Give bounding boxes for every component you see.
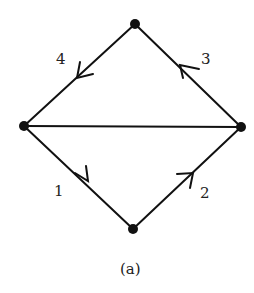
edge-top-left	[24, 24, 135, 126]
caption: (a)	[120, 262, 141, 277]
node-top	[130, 19, 140, 29]
graph-canvas	[0, 0, 254, 293]
node-bottom	[128, 224, 138, 234]
edge-label-3: 3	[201, 52, 211, 67]
node-right	[236, 122, 246, 132]
edge-label-4: 4	[56, 52, 66, 67]
edge-label-2: 2	[200, 186, 210, 201]
edge-left-bottom	[24, 126, 133, 229]
diagram: 4 3 1 2 (a)	[0, 0, 254, 293]
edge-left-right	[24, 126, 241, 127]
node-left	[19, 121, 29, 131]
edge-label-1: 1	[54, 184, 64, 199]
edge-bottom-right	[133, 127, 241, 229]
arrow-1-icon	[75, 166, 88, 181]
edge-top-right	[135, 24, 241, 127]
